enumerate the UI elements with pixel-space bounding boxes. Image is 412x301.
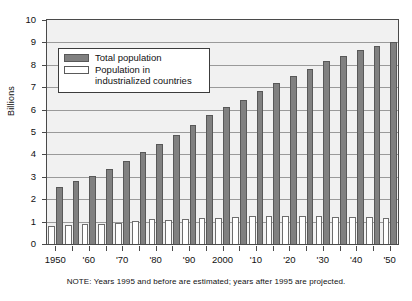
x-tick-mark [356, 246, 357, 251]
chart-legend: Total population Population in industria… [58, 48, 210, 93]
bar-industrialized-population [98, 224, 105, 244]
bar-total-population [73, 181, 80, 244]
x-tick-mark [373, 246, 374, 251]
bar-industrialized-population [266, 216, 273, 244]
bar-total-population [390, 42, 397, 244]
bar-industrialized-population [199, 218, 206, 244]
bar-group [365, 20, 382, 244]
y-tick-label: 3 [14, 172, 36, 182]
x-tick-mark [289, 246, 290, 251]
hollow-white-swatch-icon [64, 66, 89, 74]
bar-industrialized-population [182, 219, 189, 244]
bar-total-population [173, 135, 180, 244]
y-tick-mark [42, 20, 46, 21]
y-axis-title: Billions [6, 66, 16, 136]
bar-group [214, 20, 231, 244]
bar-total-population [140, 152, 147, 244]
bar-industrialized-population [383, 218, 390, 244]
y-tick-mark [42, 42, 46, 43]
x-tick-mark [306, 246, 307, 251]
bar-group [331, 20, 348, 244]
bar-total-population [106, 169, 113, 244]
bar-total-population [223, 107, 230, 244]
x-tick-mark [223, 246, 224, 251]
bar-group [314, 20, 331, 244]
bar-group [248, 20, 265, 244]
bar-industrialized-population [282, 216, 289, 244]
x-tick-mark [273, 246, 274, 251]
bar-total-population [89, 176, 96, 244]
bar-total-population [257, 91, 264, 244]
bar-industrialized-population [132, 221, 139, 244]
bar-industrialized-population [82, 224, 89, 244]
legend-item-label: Population in [95, 64, 150, 75]
bar-industrialized-population [215, 218, 222, 244]
y-tick-label: 8 [14, 60, 36, 70]
bar-total-population [123, 161, 130, 244]
y-tick-mark [42, 65, 46, 66]
y-tick-label: 1 [14, 217, 36, 227]
bar-industrialized-population [366, 217, 373, 244]
bar-industrialized-population [115, 223, 122, 244]
y-tick-label: 9 [14, 37, 36, 47]
bar-group [281, 20, 298, 244]
bar-industrialized-population [249, 216, 256, 244]
legend-item-label-wrapper: Population in industrialized countries [95, 64, 192, 86]
y-tick-mark [42, 132, 46, 133]
y-tick-mark [42, 199, 46, 200]
legend-item-industrialized-population: Population in industrialized countries [64, 64, 205, 86]
bar-total-population [340, 56, 347, 244]
bar-total-population [156, 144, 163, 244]
bar-group [231, 20, 248, 244]
bar-group [298, 20, 315, 244]
x-tick-mark [239, 246, 240, 251]
bar-total-population [290, 76, 297, 244]
bar-industrialized-population [65, 225, 72, 244]
chart-note: NOTE: Years 1995 and before are estimate… [0, 277, 412, 286]
bar-total-population [240, 100, 247, 244]
bar-total-population [206, 115, 213, 244]
bar-industrialized-population [165, 220, 172, 244]
y-tick-label: 4 [14, 149, 36, 159]
legend-item-total-population: Total population [64, 52, 205, 63]
x-tick-mark [323, 246, 324, 251]
y-tick-mark [42, 87, 46, 88]
y-tick-mark [42, 244, 46, 245]
bar-industrialized-population [332, 217, 339, 244]
x-tick-mark [340, 246, 341, 251]
filled-gray-swatch-icon [64, 54, 89, 62]
bar-total-population [56, 187, 63, 244]
y-tick-label: 0 [14, 239, 36, 249]
x-tick-mark [122, 246, 123, 251]
bar-industrialized-population [299, 216, 306, 244]
bar-industrialized-population [232, 217, 239, 244]
bar-total-population [190, 125, 197, 244]
bar-group [381, 20, 398, 244]
x-tick-mark [206, 246, 207, 251]
y-tick-mark [42, 177, 46, 178]
bar-total-population [307, 69, 314, 244]
y-tick-label: 2 [14, 194, 36, 204]
y-tick-label: 6 [14, 105, 36, 115]
population-bar-chart: Billions Total population Population in … [0, 0, 412, 301]
x-tick-mark [390, 246, 391, 251]
bar-industrialized-population [149, 219, 156, 244]
bar-group [348, 20, 365, 244]
y-tick-mark [42, 110, 46, 111]
x-tick-mark [106, 246, 107, 251]
x-tick-mark [189, 246, 190, 251]
x-tick-mark [156, 246, 157, 251]
legend-item-label: Total population [95, 52, 162, 63]
legend-item-label-line2: industrialized countries [95, 75, 192, 86]
x-tick-label: '50 [370, 254, 410, 265]
y-tick-label: 5 [14, 127, 36, 137]
x-tick-mark [72, 246, 73, 251]
y-tick-label: 7 [14, 82, 36, 92]
x-tick-mark [89, 246, 90, 251]
x-tick-mark [139, 246, 140, 251]
bar-industrialized-population [349, 217, 356, 244]
y-tick-mark [42, 154, 46, 155]
bar-industrialized-population [316, 216, 323, 244]
bar-total-population [357, 50, 364, 244]
bar-group [264, 20, 281, 244]
